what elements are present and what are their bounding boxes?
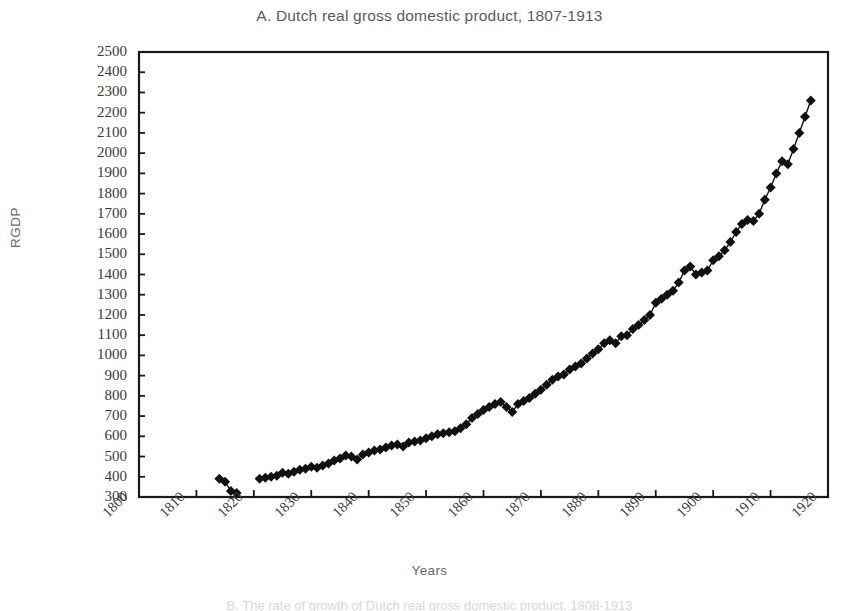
y-tick-label: 400	[67, 469, 127, 484]
y-tick-label: 900	[67, 368, 127, 383]
figure-panel-a: A. Dutch real gross domestic product, 18…	[0, 0, 859, 611]
y-tick-label: 1100	[67, 327, 127, 342]
y-tick-label: 1200	[67, 307, 127, 322]
plot-frame	[139, 52, 828, 497]
y-tick-label: 2300	[67, 84, 127, 99]
y-tick-label: 700	[67, 408, 127, 423]
y-tick-label: 2000	[67, 145, 127, 160]
y-tick-label: 1500	[67, 246, 127, 261]
y-tick-label: 600	[67, 428, 127, 443]
y-tick-label: 500	[67, 449, 127, 464]
y-tick-label: 1300	[67, 287, 127, 302]
chart-canvas	[0, 0, 859, 611]
x-axis-title: Years	[0, 563, 859, 578]
y-tick-label: 1800	[67, 186, 127, 201]
y-tick-label: 2200	[67, 105, 127, 120]
y-axis-title: RGDP	[8, 207, 23, 248]
y-tick-label: 2400	[67, 64, 127, 79]
y-tick-label: 1700	[67, 206, 127, 221]
y-tick-label: 1900	[67, 165, 127, 180]
y-tick-label: 2500	[67, 44, 127, 59]
plot-border	[139, 52, 828, 497]
figure-caption: B. The rate of growth of Dutch real gros…	[0, 598, 859, 611]
y-tick-label: 1000	[67, 347, 127, 362]
y-tick-label: 800	[67, 388, 127, 403]
y-tick-label: 1400	[67, 267, 127, 282]
y-tick-label: 2100	[67, 125, 127, 140]
plot-area: 3004005006007008009001000110012001300140…	[0, 0, 859, 611]
y-tick-label: 1600	[67, 226, 127, 241]
